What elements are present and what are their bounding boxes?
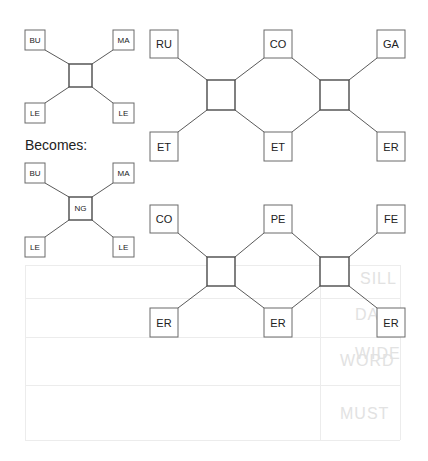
hub-box <box>207 257 235 286</box>
node-box: ER <box>377 308 405 337</box>
node-box: BU <box>25 163 45 183</box>
small-diagram-before: BU MA LE LE <box>25 30 134 123</box>
chain-diagram-bottom: CO PE FE ER ER ER <box>150 205 405 337</box>
svg-text:BU: BU <box>29 36 40 45</box>
svg-text:PE: PE <box>271 213 286 225</box>
svg-text:LE: LE <box>119 109 129 118</box>
svg-text:LE: LE <box>30 109 40 118</box>
svg-text:ET: ET <box>157 141 171 153</box>
svg-text:BU: BU <box>29 169 40 178</box>
small-diagram-after: NG BU MA LE LE <box>25 163 134 257</box>
node-box: MA <box>113 30 134 50</box>
node-box: ER <box>377 132 405 161</box>
svg-text:LE: LE <box>30 243 40 252</box>
hub-box <box>320 257 349 286</box>
node-box: CO <box>150 205 178 233</box>
svg-text:ER: ER <box>270 317 285 329</box>
node-box: LE <box>25 237 45 257</box>
svg-text:ER: ER <box>156 317 171 329</box>
hub-box <box>69 64 92 87</box>
hub-box <box>320 80 349 110</box>
node-box: GA <box>377 30 405 58</box>
node-box: LE <box>113 237 134 257</box>
hub-box <box>207 80 235 110</box>
node-box: ER <box>264 308 292 337</box>
node-box: MA <box>113 163 134 183</box>
svg-text:ER: ER <box>383 141 398 153</box>
node-box: ET <box>150 132 178 161</box>
diagram-canvas: BU MA LE LE NG BU MA <box>0 0 428 461</box>
svg-text:LE: LE <box>119 243 129 252</box>
svg-text:CO: CO <box>156 213 173 225</box>
svg-text:MA: MA <box>118 36 131 45</box>
node-box: LE <box>25 103 45 123</box>
node-box: PE <box>264 205 292 233</box>
svg-text:GA: GA <box>383 38 400 50</box>
hub-box: NG <box>69 197 92 220</box>
svg-text:ER: ER <box>383 317 398 329</box>
node-box: FE <box>377 205 405 233</box>
chain-diagram-top: RU CO GA ET ET ER <box>150 30 405 161</box>
svg-text:MA: MA <box>118 169 131 178</box>
svg-text:NG: NG <box>75 204 87 213</box>
svg-text:FE: FE <box>384 213 398 225</box>
node-box: RU <box>150 30 178 58</box>
node-box: ER <box>150 308 178 337</box>
svg-text:RU: RU <box>156 38 172 50</box>
node-box: LE <box>113 103 134 123</box>
svg-text:ET: ET <box>271 141 285 153</box>
svg-text:CO: CO <box>270 38 287 50</box>
node-box: ET <box>264 132 292 161</box>
node-box: BU <box>25 30 45 50</box>
node-box: CO <box>264 30 292 58</box>
